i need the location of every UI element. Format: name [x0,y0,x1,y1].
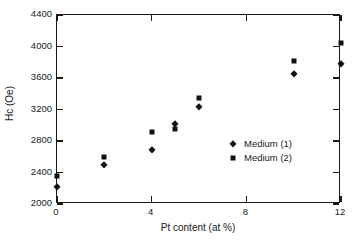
data-point [102,154,107,159]
y-axis-tick [57,109,63,110]
diamond-marker-icon [230,137,242,151]
data-point [53,183,60,190]
x-axis-tick [151,15,152,21]
data-point [195,103,202,110]
chart-legend: Medium (1)Medium (2) [230,137,292,165]
x-axis-tick-label: 4 [136,207,166,217]
y-axis-tick [57,203,63,204]
data-point [55,174,60,179]
data-point [290,70,297,77]
y-axis-tick-label: 2400 [0,167,52,177]
legend-label: Medium (1) [242,137,292,151]
x-axis-tick [340,196,341,202]
y-axis-tick [57,77,63,78]
y-axis-tick [57,46,63,47]
legend-item: Medium (1) [230,137,292,151]
x-axis-tick-label: 0 [41,207,71,217]
x-axis-tick [56,196,57,202]
y-axis-tick [333,14,339,15]
y-axis-tick [333,140,339,141]
y-axis-tick [57,14,63,15]
data-point [339,40,344,45]
y-axis-tick [57,172,63,173]
legend-label: Medium (2) [242,151,292,165]
y-axis-tick [333,109,339,110]
x-axis-tick [151,196,152,202]
plot-area [56,14,340,203]
y-axis-tick-label: 4400 [0,9,52,19]
x-axis-tick [246,15,247,21]
data-point [101,161,108,168]
y-axis-tick [333,172,339,173]
y-axis-tick [333,203,339,204]
x-axis-tick-label: 8 [230,207,260,217]
x-axis-title: Pt content (at %) [56,222,340,233]
x-axis-tick [246,196,247,202]
x-axis-tick [56,15,57,21]
y-axis-tick [333,46,339,47]
y-axis-tick-label: 4000 [0,41,52,51]
data-point [149,129,154,134]
data-point [337,60,344,67]
y-axis-tick [333,77,339,78]
data-point [291,58,296,63]
data-point [197,95,202,100]
data-point [148,147,155,154]
scatter-chart-figure: 2000240028003200360040004400 04812 Hc (O… [0,0,354,241]
x-axis-tick-label: 12 [325,207,354,217]
square-marker-icon [230,151,242,165]
x-axis-tick [340,15,341,21]
y-axis-tick [57,140,63,141]
data-point [173,127,178,132]
y-axis-title: Hc (Oe) [4,69,15,139]
legend-item: Medium (2) [230,151,292,165]
